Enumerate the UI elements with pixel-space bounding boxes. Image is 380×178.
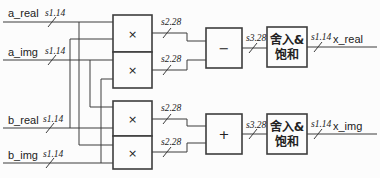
diagram-canvas: × × × × − + 舍入& 饱和 舍入& 饱和 a_real a_img b… [0,0,380,178]
round-saturate-real-label-line1: 舍入& [270,32,304,47]
bus-label-mult2-out: s2.28 [161,54,182,64]
signal-label-b-img: b_img [8,149,38,161]
signal-label-b-real: b_real [8,114,39,126]
bus-label-x-img-width: s1.14 [311,119,332,129]
multiplier1-symbol: × [128,28,137,41]
bus-label-add-out: s3.28 [246,120,267,130]
signal-label-a-real: a_real [8,7,39,19]
bus-label-b-real-width: s1.14 [43,114,64,124]
bus-label-mult4-out: s2.28 [161,137,182,147]
wire-mult3-to-add [152,119,206,126]
wire-mult1-to-subtract [152,33,206,41]
round-saturate-img-label-line2: 饱和 [275,134,299,149]
bus-label-b-img-width: s1.14 [43,149,64,159]
signal-label-a-img: a_img [8,46,38,58]
bus-label-a-img-width: s1.14 [45,46,66,56]
bus-label-subtract-out: s3.28 [246,33,267,43]
bus-label-a-real-width: s1.14 [45,8,66,18]
bus-label-x-real-width: s1.14 [311,32,332,42]
subtract-symbol: − [219,41,230,56]
bus-label-mult3-out: s2.28 [161,103,182,113]
multiplier4-symbol: × [128,147,137,160]
wire-branch-b-real-to-mult1 [70,39,113,128]
bus-label-mult1-out: s2.28 [161,17,182,27]
multiplier3-symbol: × [128,113,137,126]
complex-multiplier-diagram: × × × × − + 舍入& 饱和 舍入& 饱和 a_real a_img b… [0,0,380,178]
round-saturate-img-label-line1: 舍入& [270,119,304,134]
signal-label-x-real: x_real [333,33,363,45]
round-saturate-real-label-line2: 饱和 [275,47,299,62]
add-symbol: + [219,127,230,142]
wire-branch-b-img-to-mult2 [101,79,113,163]
wire-branch-a-real-to-mult4 [79,22,113,145]
signal-label-x-img: x_img [333,120,362,132]
multiplier2-symbol: × [128,64,137,77]
